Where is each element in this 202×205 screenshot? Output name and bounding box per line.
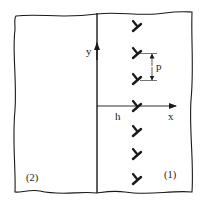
dislocation-icon <box>133 48 141 58</box>
x-axis-label: x <box>168 110 174 122</box>
dislocation-wall <box>133 21 141 184</box>
dislocation-icon <box>133 74 141 84</box>
dislocation-diagram: y p h x (2) (1) <box>0 0 202 205</box>
dislocation-icon <box>133 126 141 136</box>
distance-label: h <box>115 110 121 122</box>
specimen-outline <box>14 12 193 194</box>
diagram-container: y p h x (2) (1) <box>0 0 202 205</box>
dislocation-icon <box>133 149 141 159</box>
y-axis-label: y <box>86 45 92 57</box>
region-2-label: (2) <box>26 172 39 184</box>
spacing-label: p <box>156 60 162 72</box>
dislocation-icon <box>133 174 141 184</box>
spacing-dimension <box>140 54 157 81</box>
region-1-label: (1) <box>164 169 177 181</box>
dislocation-icon <box>133 21 141 31</box>
